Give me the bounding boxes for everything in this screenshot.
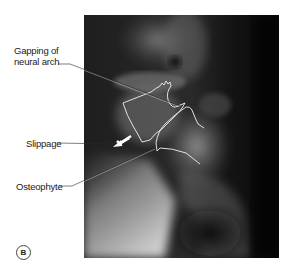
label-gapping-line-2: neural arch bbox=[14, 56, 59, 67]
label-gapping-line-1: Gapping of bbox=[14, 45, 59, 56]
xray-figure bbox=[0, 0, 287, 268]
xray-image bbox=[84, 10, 279, 263]
label-slippage: Slippage bbox=[26, 138, 61, 149]
panel-label-badge: B bbox=[16, 245, 31, 260]
label-osteophyte: Osteophyte bbox=[16, 181, 63, 192]
label-gapping-of-neural-arch: Gapping of neural arch bbox=[14, 45, 59, 67]
